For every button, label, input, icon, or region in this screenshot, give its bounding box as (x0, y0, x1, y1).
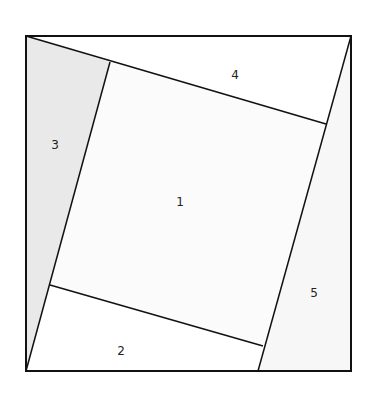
region-1-label: 1 (176, 195, 184, 209)
dissection-diagram: 1 2 3 4 5 (0, 0, 368, 393)
region-5-label: 5 (310, 286, 318, 300)
region-2-label: 2 (117, 344, 125, 358)
region-4-label: 4 (231, 68, 239, 82)
region-3-label: 3 (51, 138, 59, 152)
